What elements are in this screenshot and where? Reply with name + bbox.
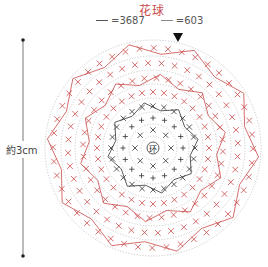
center-ring: 环: [147, 142, 159, 154]
stitch-red-r1: [139, 90, 145, 96]
stitch-dark-r3: [129, 109, 134, 114]
stitch-dark-r2: [139, 173, 144, 178]
stitch-dark-r1: [138, 133, 143, 138]
stitch-dark-r1: [132, 145, 137, 150]
stitch-red-r3: [72, 111, 78, 117]
stitch-red-r3: [181, 224, 187, 230]
stitch-dark-r3: [171, 182, 176, 187]
stitch-red-r4: [164, 244, 170, 250]
stitch-red-r2: [217, 125, 223, 131]
start-marker-icon: [173, 33, 183, 42]
stitch-red-r3: [67, 163, 73, 169]
stitch-red-r1: [150, 201, 156, 207]
stitch-red-r3: [235, 140, 241, 146]
stitch-red-r2: [202, 193, 208, 199]
stitch-red-r3: [159, 61, 165, 67]
stitch-red-r2: [206, 103, 212, 109]
stitch-red-r1: [206, 145, 212, 151]
stitch-red-r1: [95, 156, 101, 162]
stitch-red-r4: [51, 159, 57, 165]
stitch-red-r2: [220, 149, 226, 155]
stitch-red-r2: [82, 130, 88, 136]
stitch-red-r4: [97, 61, 103, 67]
stitch-dark-r1: [150, 127, 155, 132]
stitch-red-r3: [84, 199, 90, 205]
stitch-red-r1: [172, 197, 178, 203]
stitch-red-r3: [68, 124, 74, 130]
stitch-red-r3: [71, 176, 77, 182]
stitch-red-r4: [137, 46, 143, 52]
stitch-red-r1: [129, 197, 135, 203]
stitch-red-r2: [218, 161, 224, 167]
stitch-red-r4: [246, 118, 252, 124]
stitch-red-r2: [142, 76, 148, 82]
stitch-dark-r2: [129, 124, 134, 129]
stitch-red-r1: [197, 114, 203, 120]
stitch-red-r4: [108, 236, 114, 242]
stitch-red-r2: [220, 137, 226, 143]
stitch-red-r3: [94, 209, 100, 215]
stitch-red-r3: [116, 223, 122, 229]
stitch-dark-r2: [129, 167, 134, 172]
stitch-red-r3: [235, 154, 241, 160]
stitch-red-r3: [65, 150, 71, 156]
stitch-red-r2: [209, 183, 215, 189]
stitch-red-r4: [109, 54, 115, 60]
stitch-red-r3: [168, 228, 174, 234]
stitch-red-r1: [205, 134, 211, 140]
stitch-red-r2: [182, 207, 188, 213]
stitch-red-r2: [99, 98, 105, 104]
stitch-red-r2: [86, 118, 92, 124]
stitch-red-r3: [229, 114, 235, 120]
center-ring-label: 环: [149, 145, 157, 154]
stitch-red-r1: [94, 145, 100, 151]
stitch-red-r2: [83, 166, 89, 172]
dimension-label: 約3cm: [6, 141, 38, 158]
crochet-diagram: 环: [0, 0, 268, 267]
stitch-red-r1: [161, 90, 167, 96]
stitch-red-r2: [103, 197, 109, 203]
stitch-red-r4: [54, 116, 60, 122]
stitch-red-r1: [111, 185, 117, 191]
stitch-red-r4: [51, 130, 57, 136]
stitch-red-r1: [181, 99, 187, 105]
stitch-dark-r1: [163, 133, 168, 138]
stitch-red-r4: [149, 245, 155, 251]
stitch-dark-r2: [178, 157, 183, 162]
stitch-dark-r2: [150, 115, 155, 120]
stitch-red-r4: [192, 55, 198, 61]
stitch-red-r3: [207, 82, 213, 88]
stitch-red-r3: [129, 227, 135, 233]
stitch-dark-r2: [172, 167, 177, 172]
stitch-red-r3: [204, 211, 210, 217]
stitch-red-r4: [215, 221, 221, 227]
stitch-red-r1: [95, 134, 101, 140]
stitch-red-r1: [205, 156, 211, 162]
stitch-red-r4: [135, 244, 141, 250]
stitch-dark-r2: [123, 157, 128, 162]
stitch-red-r2: [198, 94, 204, 100]
stitch-red-r1: [190, 185, 196, 191]
stitch-red-r4: [235, 92, 241, 98]
stitch-red-r3: [232, 167, 238, 173]
stitch-red-r3: [193, 219, 199, 225]
stitch-dark-r3: [191, 156, 196, 161]
stitch-red-r2: [123, 210, 129, 216]
stitch-red-r2: [91, 107, 97, 113]
stitch-dark-r2: [123, 134, 128, 139]
stitch-red-r1: [197, 176, 203, 182]
stitch-red-r4: [205, 61, 211, 67]
stitch-red-r1: [181, 192, 187, 198]
stitch-dark-r2: [120, 145, 125, 150]
stitch-red-r2: [81, 154, 87, 160]
stitch-red-r1: [98, 124, 104, 130]
stitch-red-r1: [202, 124, 208, 130]
stitch-red-r2: [130, 78, 136, 84]
stitch-dark-r1: [163, 158, 168, 163]
stitch-red-r2: [94, 187, 100, 193]
stitch-red-r3: [172, 63, 178, 69]
stitch-dark-r1: [150, 163, 155, 168]
stitch-dark-r2: [162, 173, 167, 178]
stitch-red-r4: [246, 174, 252, 180]
stitch-red-r3: [145, 60, 151, 66]
